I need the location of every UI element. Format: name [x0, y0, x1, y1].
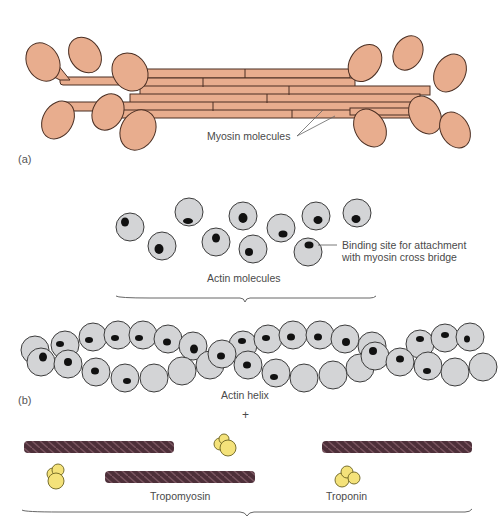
actin-molecules-brace [116, 296, 376, 302]
actin-molecules-free [116, 198, 371, 266]
actin-molecules-label: Actin molecules [207, 272, 281, 284]
troponin-label: Troponin [326, 490, 367, 502]
tropomyosin-strand-1 [24, 441, 174, 453]
plus-sign: + [242, 409, 249, 421]
tropomyosin-label: Tropomyosin [150, 490, 210, 502]
troponin-3 [335, 466, 360, 487]
myosin-head-right-2 [387, 30, 429, 75]
binding-site-label-line1: Binding site for attachment [342, 239, 466, 251]
actin-helix-label: Actin helix [221, 389, 269, 401]
panel-a-label: (a) [18, 153, 31, 165]
troponin-1 [47, 464, 64, 489]
tropomyosin-strands [24, 441, 472, 483]
troponin-2 [214, 434, 236, 456]
bottom-brace [22, 509, 472, 516]
binding-site-label-line2: with myosin cross bridge [342, 251, 457, 263]
myosin-head-right-3 [427, 48, 473, 98]
myosin-molecules-label: Myosin molecules [207, 130, 290, 142]
tropomyosin-strand-2 [105, 471, 255, 483]
actin-helix [21, 321, 497, 392]
panel-b-label: (b) [18, 394, 31, 406]
tropomyosin-strand-3 [322, 441, 472, 453]
myosin-head-left-1 [19, 37, 70, 88]
myosin-head-left-2 [62, 31, 108, 79]
